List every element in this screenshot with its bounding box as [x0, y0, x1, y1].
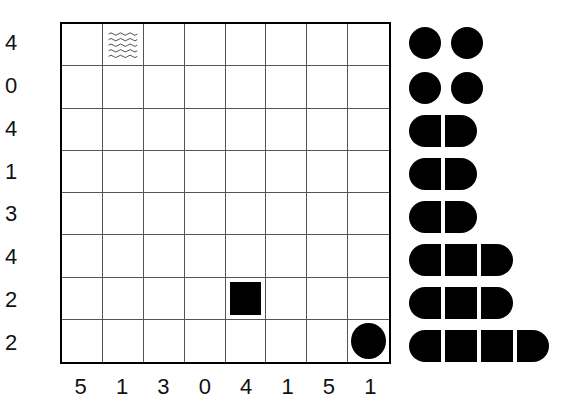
column-clue-6: 5 — [309, 374, 349, 400]
column-clue-4: 4 — [226, 374, 266, 400]
grid-cell-r6-c3[interactable] — [185, 278, 226, 320]
grid-cell-r2-c3[interactable] — [185, 109, 226, 151]
grid-cell-r5-c0[interactable] — [62, 235, 103, 277]
grid-cell-r1-c1[interactable] — [103, 66, 144, 108]
grid-cell-r5-c5[interactable] — [266, 235, 307, 277]
ship-segment-icon — [409, 158, 441, 190]
grid-cell-r0-c2[interactable] — [144, 24, 185, 66]
grid-cell-r3-c0[interactable] — [62, 151, 103, 193]
ship-segment-icon — [445, 287, 477, 319]
grid-cell-r0-c3[interactable] — [185, 24, 226, 66]
ship-segment-icon — [445, 244, 477, 276]
row-clue-1: 0 — [0, 73, 22, 99]
row-clue-4: 3 — [0, 201, 22, 227]
submarine-icon — [409, 72, 441, 104]
grid-cell-r7-c4[interactable] — [226, 320, 267, 362]
grid-cell-r3-c6[interactable] — [307, 151, 348, 193]
row-clue-0: 4 — [0, 30, 22, 56]
ship-segment-icon — [481, 330, 513, 362]
grid-cell-r5-c6[interactable] — [307, 235, 348, 277]
grid-cell-r7-c3[interactable] — [185, 320, 226, 362]
row-clue-7: 2 — [0, 330, 22, 356]
water-wave-icon — [107, 26, 139, 61]
column-clue-3: 0 — [185, 374, 225, 400]
grid-cell-r7-c1[interactable] — [103, 320, 144, 362]
grid-cell-r4-c0[interactable] — [62, 193, 103, 235]
grid-cell-r6-c7[interactable] — [348, 278, 389, 320]
grid-cell-r1-c7[interactable] — [348, 66, 389, 108]
grid-cell-r4-c3[interactable] — [185, 193, 226, 235]
row-clue-2: 4 — [0, 116, 22, 142]
grid-cell-r5-c2[interactable] — [144, 235, 185, 277]
grid-cell-r0-c0[interactable] — [62, 24, 103, 66]
grid-cell-r7-c0[interactable] — [62, 320, 103, 362]
grid-cell-r5-c7[interactable] — [348, 235, 389, 277]
grid-cell-r1-c0[interactable] — [62, 66, 103, 108]
grid-cell-r0-c4[interactable] — [226, 24, 267, 66]
grid-cell-r6-c0[interactable] — [62, 278, 103, 320]
grid-cell-r3-c3[interactable] — [185, 151, 226, 193]
fleet-ship-length-2 — [409, 201, 481, 233]
grid-cell-r0-c6[interactable] — [307, 24, 348, 66]
grid-cell-r3-c2[interactable] — [144, 151, 185, 193]
ship-segment-icon — [481, 244, 513, 276]
grid-cell-r2-c4[interactable] — [226, 109, 267, 151]
grid-cell-r4-c2[interactable] — [144, 193, 185, 235]
ship-segment-icon — [409, 244, 441, 276]
ship-segment-icon — [409, 287, 441, 319]
fleet-ship-length-2 — [409, 115, 481, 147]
grid-cell-r6-c2[interactable] — [144, 278, 185, 320]
grid-cell-r2-c2[interactable] — [144, 109, 185, 151]
grid-cell-r6-c4[interactable] — [226, 278, 267, 320]
grid-cell-r3-c7[interactable] — [348, 151, 389, 193]
ship-segment-icon — [481, 287, 513, 319]
grid-cell-r4-c5[interactable] — [266, 193, 307, 235]
grid-cell-r1-c5[interactable] — [266, 66, 307, 108]
grid-cell-r3-c4[interactable] — [226, 151, 267, 193]
grid-cell-r5-c1[interactable] — [103, 235, 144, 277]
fleet-ship-length-4 — [409, 330, 553, 362]
grid-cell-r4-c6[interactable] — [307, 193, 348, 235]
grid-cell-r2-c5[interactable] — [266, 109, 307, 151]
grid-cell-r1-c3[interactable] — [185, 66, 226, 108]
column-clue-7: 1 — [350, 374, 390, 400]
grid-cell-r6-c6[interactable] — [307, 278, 348, 320]
ship-segment-icon — [409, 330, 441, 362]
submarine-icon — [451, 27, 483, 59]
ship-segment-icon — [517, 330, 549, 362]
grid-cell-r6-c5[interactable] — [266, 278, 307, 320]
grid-cell-r0-c5[interactable] — [266, 24, 307, 66]
grid-cell-r0-c7[interactable] — [348, 24, 389, 66]
grid-cell-r7-c2[interactable] — [144, 320, 185, 362]
column-clue-0: 5 — [61, 374, 101, 400]
ship-segment-icon — [445, 158, 477, 190]
ship-segment-icon — [409, 201, 441, 233]
grid-cell-r5-c3[interactable] — [185, 235, 226, 277]
grid-cell-r4-c1[interactable] — [103, 193, 144, 235]
grid-cell-r2-c0[interactable] — [62, 109, 103, 151]
grid-cell-r6-c1[interactable] — [103, 278, 144, 320]
column-clue-5: 1 — [268, 374, 308, 400]
grid-cell-r1-c2[interactable] — [144, 66, 185, 108]
grid-cell-r2-c7[interactable] — [348, 109, 389, 151]
fleet-ship-length-1 — [409, 27, 493, 59]
grid-cell-r1-c6[interactable] — [307, 66, 348, 108]
grid-cell-r3-c5[interactable] — [266, 151, 307, 193]
grid-cell-r7-c6[interactable] — [307, 320, 348, 362]
fleet-ship-length-3 — [409, 244, 517, 276]
puzzle-grid[interactable] — [60, 22, 391, 364]
ship-segment-icon — [445, 115, 477, 147]
grid-cell-r7-c5[interactable] — [266, 320, 307, 362]
grid-cell-r7-c7[interactable] — [348, 320, 389, 362]
grid-cell-r5-c4[interactable] — [226, 235, 267, 277]
ship-segment-icon — [445, 201, 477, 233]
grid-cell-r1-c4[interactable] — [226, 66, 267, 108]
grid-cell-r2-c1[interactable] — [103, 109, 144, 151]
ship-segment-icon — [445, 330, 477, 362]
grid-cell-r4-c7[interactable] — [348, 193, 389, 235]
grid-cell-r3-c1[interactable] — [103, 151, 144, 193]
grid-cell-r2-c6[interactable] — [307, 109, 348, 151]
grid-cell-r0-c1[interactable] — [103, 24, 144, 66]
submarine-icon — [451, 72, 483, 104]
grid-cell-r4-c4[interactable] — [226, 193, 267, 235]
